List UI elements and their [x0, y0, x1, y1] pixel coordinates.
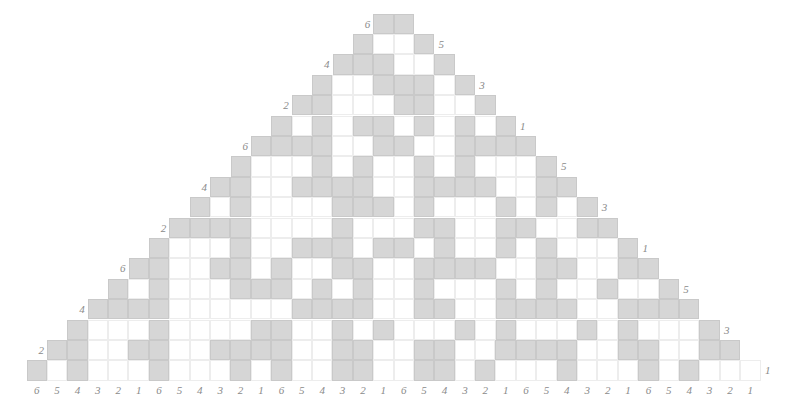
grid-row	[149, 238, 638, 258]
grid-cell-empty	[312, 320, 332, 340]
grid-cell-empty	[373, 258, 393, 278]
grid-cell-empty	[496, 258, 516, 278]
grid-cell-empty	[312, 258, 332, 278]
x-axis-tick-label: 6	[27, 384, 47, 396]
grid-cell-empty	[475, 320, 495, 340]
grid-cell-empty	[108, 320, 128, 340]
grid-cell-empty	[720, 360, 740, 380]
grid-cell-empty	[271, 238, 291, 258]
grid-cell-filled	[149, 340, 169, 360]
x-axis-tick-label: 6	[149, 384, 169, 396]
grid-cell-filled	[577, 218, 597, 238]
grid-cell-empty	[475, 299, 495, 319]
grid-cell-empty	[169, 238, 189, 258]
x-axis-tick-label: 3	[210, 384, 230, 396]
grid-cell-empty	[455, 218, 475, 238]
grid-cell-filled	[169, 218, 189, 238]
grid-cell-empty	[659, 320, 679, 340]
x-axis-tick-label: 2	[475, 384, 495, 396]
grid-cell-filled	[149, 299, 169, 319]
grid-cell-empty	[210, 320, 230, 340]
grid-cell-empty	[169, 340, 189, 360]
grid-cell-empty	[292, 156, 312, 176]
grid-cell-filled	[230, 177, 250, 197]
grid-cell-filled	[67, 360, 87, 380]
grid-cell-filled	[353, 299, 373, 319]
grid-cell-filled	[455, 177, 475, 197]
grid-cell-filled	[332, 177, 352, 197]
grid-cell-filled	[27, 360, 47, 380]
grid-cell-empty	[373, 340, 393, 360]
grid-cell-filled	[230, 238, 250, 258]
grid-cell-empty	[271, 299, 291, 319]
x-axis-tick-label: 5	[292, 384, 312, 396]
grid-cell-filled	[659, 279, 679, 299]
grid-cell-filled	[373, 54, 393, 74]
grid-cell-empty	[251, 360, 271, 380]
grid-cell-empty	[353, 320, 373, 340]
grid-cell-empty	[292, 340, 312, 360]
grid-cell-filled	[414, 258, 434, 278]
x-axis-tick-label: 1	[740, 384, 760, 396]
x-axis-tick-label: 6	[271, 384, 291, 396]
row-label-left: 4	[312, 54, 330, 74]
grid-cell-filled	[394, 95, 414, 115]
grid-cell-filled	[210, 258, 230, 278]
grid-cell-empty	[373, 34, 393, 54]
grid-cell-empty	[597, 238, 617, 258]
grid-cell-filled	[720, 340, 740, 360]
grid-cell-empty	[312, 340, 332, 360]
grid-cell-empty	[210, 299, 230, 319]
grid-cell-filled	[516, 136, 536, 156]
grid-cell-empty	[353, 136, 373, 156]
grid-cell-filled	[577, 320, 597, 340]
grid-cell-empty	[47, 360, 67, 380]
grid-cell-empty	[577, 360, 597, 380]
grid-row	[67, 320, 720, 340]
row-label-left: 2	[26, 340, 44, 360]
grid-cell-filled	[332, 197, 352, 217]
grid-cell-empty	[434, 136, 454, 156]
grid-cell-empty	[190, 320, 210, 340]
grid-row	[333, 54, 455, 74]
grid-cell-empty	[394, 360, 414, 380]
x-axis-tick-label: 4	[67, 384, 87, 396]
grid-cell-empty	[597, 360, 617, 380]
grid-cell-filled	[516, 340, 536, 360]
grid-cell-filled	[373, 320, 393, 340]
grid-cell-filled	[353, 279, 373, 299]
grid-cell-empty	[312, 218, 332, 238]
grid-cell-empty	[353, 95, 373, 115]
x-axis-tick-label: 2	[597, 384, 617, 396]
grid-cell-filled	[414, 34, 434, 54]
grid-cell-empty	[455, 340, 475, 360]
row-label-right: 3	[724, 320, 742, 340]
grid-cell-empty	[394, 299, 414, 319]
row-label-right: 3	[479, 75, 497, 95]
grid-cell-filled	[434, 258, 454, 278]
grid-cell-filled	[455, 156, 475, 176]
grid-cell-filled	[251, 279, 271, 299]
grid-cell-empty	[271, 156, 291, 176]
grid-cell-filled	[496, 320, 516, 340]
grid-cell-empty	[414, 136, 434, 156]
grid-cell-filled	[271, 320, 291, 340]
grid-cell-empty	[455, 95, 475, 115]
grid-cell-empty	[414, 320, 434, 340]
grid-cell-empty	[516, 320, 536, 340]
grid-cell-empty	[210, 197, 230, 217]
grid-cell-empty	[169, 360, 189, 380]
grid-cell-empty	[210, 360, 230, 380]
grid-cell-filled	[353, 54, 373, 74]
grid-cell-empty	[373, 95, 393, 115]
grid-row	[27, 360, 761, 380]
x-axis-tick-label: 6	[516, 384, 536, 396]
grid-cell-empty	[251, 177, 271, 197]
x-axis-tick-label: 3	[88, 384, 108, 396]
x-axis-tick-label: 4	[679, 384, 699, 396]
grid-row	[88, 299, 700, 319]
grid-cell-filled	[231, 156, 251, 176]
grid-row	[271, 116, 516, 136]
grid-cell-empty	[475, 238, 495, 258]
grid-cell-empty	[394, 54, 414, 74]
